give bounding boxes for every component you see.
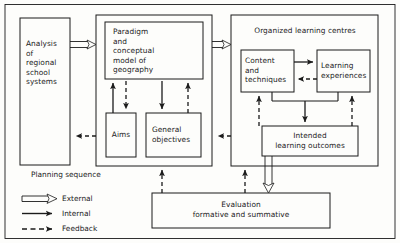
arrow-outcomes-to-evaluation-external: [263, 156, 274, 193]
box-aims: [106, 113, 136, 157]
legend-label-external: External: [62, 194, 93, 203]
box-evaluation: [152, 193, 330, 228]
legend-title: Planning sequence: [31, 170, 101, 179]
arrow-paradigm-to-centres-external: [212, 40, 231, 49]
box-analysis: [20, 18, 70, 165]
flow-diagram: Analysis of regional school systems Para…: [0, 0, 400, 243]
diagram-canvas: [0, 0, 400, 243]
box-intended-learning-outcomes: [262, 126, 358, 156]
box-content-techniques: [241, 50, 294, 92]
legend-glyph-external: [22, 194, 57, 203]
arrow-analysis-to-paradigm-external: [70, 40, 96, 49]
legend-label-feedback: Feedback: [62, 224, 97, 233]
box-paradigm: [105, 22, 203, 79]
container-organized-learning-centres: [231, 15, 378, 166]
legend-label-internal: Internal: [62, 209, 90, 218]
box-general-objectives: [146, 113, 201, 157]
diagram-border: [5, 5, 395, 239]
box-learning-experiences: [317, 50, 370, 92]
connector-centres-to-outcomes: [272, 92, 338, 122]
